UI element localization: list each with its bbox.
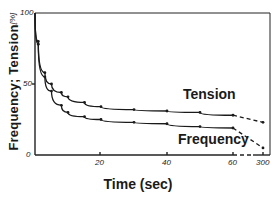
y-tick-label-100: 100 xyxy=(20,8,33,17)
data-point xyxy=(262,147,265,150)
data-point xyxy=(100,118,103,121)
data-point xyxy=(44,71,47,74)
y-tick-label-0: 0 xyxy=(26,150,30,159)
y-axis-label: Frequency; Tension xyxy=(6,23,21,153)
data-point xyxy=(133,121,136,124)
data-point xyxy=(67,111,70,114)
x-tick-label-40: 40 xyxy=(162,158,171,167)
y-tick-label-50: 50 xyxy=(23,79,32,88)
data-point xyxy=(67,95,70,98)
data-point xyxy=(199,111,202,114)
data-point xyxy=(83,101,86,104)
x-tick-label-300: 300 xyxy=(256,158,269,167)
data-point xyxy=(166,110,169,113)
chart-plot-area xyxy=(0,0,276,204)
data-point xyxy=(133,108,136,111)
x-tick-label-60: 60 xyxy=(228,158,237,167)
data-point xyxy=(166,122,169,125)
data-point xyxy=(44,76,47,79)
data-point xyxy=(37,43,40,46)
data-point xyxy=(199,125,202,128)
data-point xyxy=(232,114,235,117)
data-point xyxy=(60,104,63,107)
data-point xyxy=(50,83,53,86)
data-point xyxy=(50,90,53,93)
series-label-tension: Tension xyxy=(183,86,236,102)
series-dashed-tension xyxy=(233,115,263,122)
x-tick-label-20: 20 xyxy=(95,158,104,167)
series-label-frequency: Frequency xyxy=(178,131,249,147)
y-axis-unit: [%] xyxy=(8,13,17,25)
x-axis-label: Time (sec) xyxy=(0,176,276,192)
data-point xyxy=(83,115,86,118)
data-point xyxy=(232,127,235,130)
data-point xyxy=(262,121,265,124)
data-point xyxy=(60,91,63,94)
data-point xyxy=(100,105,103,108)
